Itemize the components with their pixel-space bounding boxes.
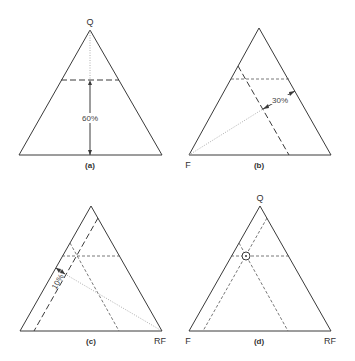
rf-10-line-d: [203, 218, 267, 331]
annotation-b: 30%: [272, 96, 288, 105]
annotation-c: 10%: [50, 273, 66, 291]
plotted-point-dot-icon: [245, 255, 247, 257]
vertex-label-f: F: [185, 336, 191, 346]
arrow-head-icon: [56, 268, 61, 273]
triangle-d: [189, 206, 331, 331]
vertex-label-f: F: [185, 160, 191, 170]
arrow-head-icon: [289, 91, 295, 96]
vertex-label-rf: RF: [154, 336, 166, 346]
ternary-diagram-figure: 60% Q (a) 30% F (b) 10% RF (c): [0, 0, 355, 361]
panel-b: 30% F (b): [185, 28, 331, 170]
dotted-guide-b: [189, 109, 263, 155]
arrow-head-icon: [60, 269, 65, 274]
triangle-c: [20, 206, 162, 331]
panel-d: Q F RF (d): [185, 193, 336, 346]
arrow-head-up-icon: [88, 80, 92, 85]
triangle-b: [189, 28, 331, 155]
arrow-head-down-icon: [88, 150, 92, 155]
vertex-label-q: Q: [86, 17, 93, 27]
caption-d: (d): [254, 337, 265, 346]
vertex-label-q: Q: [256, 193, 263, 203]
caption-b: (b): [254, 161, 265, 170]
annotation-a: 60%: [82, 114, 98, 123]
panel-c: 10% RF (c): [20, 206, 166, 346]
panel-a: 60% Q (a): [19, 17, 162, 170]
caption-a: (a): [85, 161, 95, 170]
caption-c: (c): [86, 337, 96, 346]
dotted-guide-c: [65, 274, 162, 331]
rf-10-line: [34, 218, 98, 331]
vertex-label-rf: RF: [324, 336, 336, 346]
arrow-head-icon: [263, 104, 269, 109]
